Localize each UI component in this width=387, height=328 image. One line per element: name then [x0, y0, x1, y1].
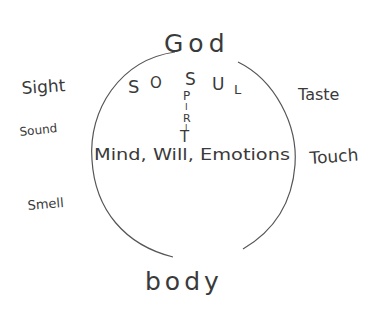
body-label: body: [145, 267, 223, 296]
soul-letter-s: S: [128, 76, 139, 97]
soul-letter-o: O: [150, 74, 162, 92]
soul-letter-u: U: [212, 74, 224, 94]
soul-letter-l: L: [234, 82, 242, 97]
soul-spirit-body-diagram: God S O S U L P I R I T Mind, Will, Emot…: [0, 0, 387, 328]
sense-sight: Sight: [21, 75, 66, 98]
spirit-letter-t: T: [179, 128, 190, 146]
spirit-letter-i: I: [185, 102, 188, 112]
sense-taste: Taste: [297, 85, 339, 104]
spirit-letter-p: P: [183, 89, 190, 103]
diagram-canvas: God S O S U L P I R I T Mind, Will, Emot…: [0, 0, 387, 328]
soul-letter-s2: S: [185, 69, 196, 89]
mind-will-emotions-label: Mind, Will, Emotions: [94, 146, 290, 164]
god-label: God: [164, 29, 230, 58]
sense-touch: Touch: [308, 145, 359, 168]
sense-sound: Sound: [19, 121, 58, 139]
sense-smell: Smell: [27, 195, 64, 213]
